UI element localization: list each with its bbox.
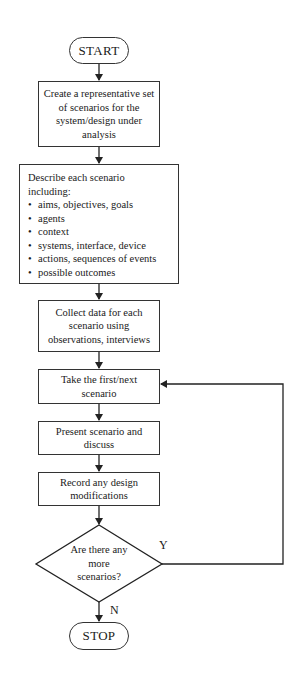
list-item: aims, objectives, goals bbox=[28, 198, 156, 212]
step-text: Collect data for each scenario using obs… bbox=[43, 306, 155, 347]
step-create-scenarios: Create a representative set of scenarios… bbox=[38, 81, 160, 147]
step-text: Record any design modifications bbox=[53, 476, 145, 503]
stop-terminal: STOP bbox=[69, 622, 129, 650]
describe-list: aims, objectives, goals agents context s… bbox=[28, 198, 156, 279]
list-item: possible outcomes bbox=[28, 266, 156, 280]
start-label: START bbox=[79, 44, 120, 58]
step-take-scenario: Take the first/next scenario bbox=[38, 369, 160, 404]
step-heading: Describe each scenario including: bbox=[28, 171, 138, 198]
decision-text: Are there any more scenarios? bbox=[69, 543, 129, 584]
step-record-modifications: Record any design modifications bbox=[38, 472, 160, 506]
stop-label: STOP bbox=[83, 629, 116, 643]
yes-label: Y bbox=[159, 538, 168, 553]
start-terminal: START bbox=[69, 37, 129, 64]
step-text: Take the first/next scenario bbox=[59, 373, 139, 400]
no-label: N bbox=[110, 603, 119, 618]
step-present-discuss: Present scenario and discuss bbox=[38, 421, 160, 455]
step-describe-scenarios: Describe each scenario including: aims, … bbox=[19, 164, 179, 284]
step-text: Create a representative set of scenarios… bbox=[43, 87, 155, 141]
list-item: actions, sequences of events bbox=[28, 252, 156, 266]
step-text: Present scenario and discuss bbox=[51, 425, 147, 452]
list-item: agents bbox=[28, 212, 156, 226]
step-collect-data: Collect data for each scenario using obs… bbox=[38, 300, 160, 352]
list-item: context bbox=[28, 225, 156, 239]
list-item: systems, interface, device bbox=[28, 239, 156, 253]
